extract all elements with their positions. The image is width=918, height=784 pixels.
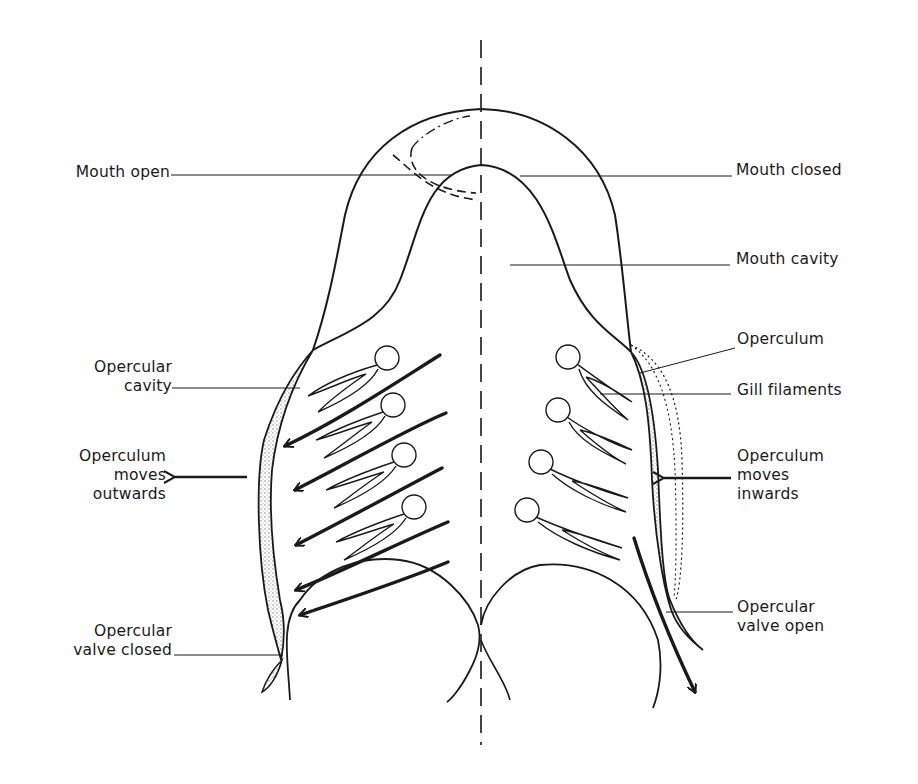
flow-arrow-1	[285, 355, 440, 446]
right-bottom-lobe-tail	[481, 640, 510, 700]
label-mouth-cavity: Mouth cavity	[736, 250, 839, 269]
right-operculum	[631, 352, 703, 650]
left-opercular-valve-closed	[262, 660, 282, 692]
mouth-open-dashed-lip-outer	[393, 155, 478, 200]
right-outflow-arrow	[634, 538, 695, 692]
mouth-open-dashed-lip-inner	[411, 148, 476, 193]
right-bottom-lobe	[481, 564, 661, 708]
label-gill-filaments: Gill filaments	[737, 381, 842, 400]
left-gill-arch-4	[336, 495, 426, 560]
label-operculum-moves-outwards: Operculum moves outwards	[79, 447, 166, 504]
left-water-flow-arrows	[285, 355, 448, 615]
right-gill-arches	[515, 345, 632, 560]
right-gill-arch-2	[546, 398, 632, 464]
left-gill-arch-3	[326, 443, 416, 508]
flow-arrow-5	[300, 562, 448, 615]
label-operculum-moves-inwards: Operculum moves inwards	[737, 447, 824, 504]
fish-ventilation-diagram: Mouth open Opercular cavity Operculum mo…	[0, 0, 918, 784]
leader-operculum	[640, 348, 735, 373]
right-gill-arch-4	[515, 498, 622, 560]
label-opercular-valve-open: Opercular valve open	[737, 598, 824, 636]
label-opercular-valve-closed: Opercular valve closed	[73, 622, 172, 660]
label-operculum: Operculum	[737, 330, 824, 349]
left-gill-arch-1	[308, 346, 399, 412]
right-gill-arch-3	[529, 450, 628, 512]
outer-head-outline	[313, 109, 631, 352]
label-mouth-open: Mouth open	[76, 163, 170, 182]
right-gill-arch-1	[556, 345, 632, 420]
label-opercular-cavity: Opercular cavity	[94, 358, 172, 396]
label-mouth-closed: Mouth closed	[736, 161, 842, 180]
